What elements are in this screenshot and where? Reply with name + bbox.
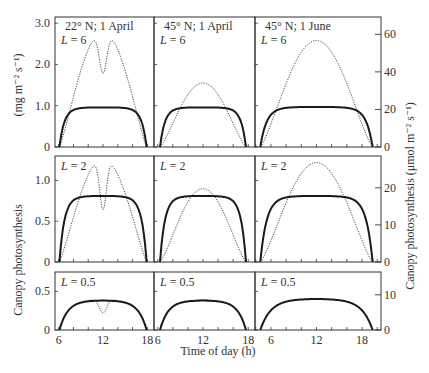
dotted-curve: [260, 299, 372, 330]
panel-r2-c2: L = 0.561218: [255, 272, 381, 347]
y-tick-label-left: 1.0: [35, 99, 50, 113]
y-tick-label-right: 20: [384, 181, 396, 195]
y-tick-label-right: 0: [384, 323, 390, 337]
x-tick-label: 18: [141, 333, 153, 347]
panel-r0-c2: L = 645° N; 1 June: [255, 17, 381, 147]
x-tick-label: 6: [56, 333, 62, 347]
dotted-curve: [160, 83, 246, 147]
dotted-curve: [260, 163, 372, 263]
column-label: 45° N; 1 June: [265, 19, 331, 33]
panel-grid: L = 622° N; 1 AprilL = 645° N; 1 AprilL …: [35, 16, 396, 347]
panel-r1-c1: L = 2: [154, 156, 255, 262]
y-tick-label-left: 1.0: [35, 173, 50, 187]
x-tick-label: 18: [356, 333, 368, 347]
solid-curve: [160, 196, 246, 262]
dotted-curve: [260, 41, 372, 148]
panel-r2-c1: L = 0.561218: [154, 272, 255, 347]
solid-curve: [160, 301, 246, 330]
x-tick-label: 6: [155, 333, 161, 347]
dotted-curve: [59, 166, 146, 262]
lai-label: L = 6: [159, 33, 185, 47]
y-tick-label-left: 0: [44, 140, 50, 154]
lai-label: L = 2: [260, 159, 286, 173]
y-tick-label-right: 40: [384, 65, 396, 79]
dotted-curve: [59, 41, 146, 147]
y-axis-label-left: Canopy photosynthesis: [11, 204, 25, 316]
lai-label: L = 0.5: [60, 275, 95, 289]
y-axis-label-right: Canopy photosynthesis (μmol m⁻² s⁻¹): [403, 102, 417, 290]
x-tick-label: 12: [97, 333, 109, 347]
panel-r0-c1: L = 645° N; 1 April: [154, 17, 255, 147]
y-tick-label-right: 10: [384, 218, 396, 232]
solid-curve: [160, 107, 246, 147]
lai-label: L = 2: [159, 159, 185, 173]
y-axis-unit-left: (mg m⁻² s⁻¹): [11, 53, 25, 116]
panel-r0-c0: L = 622° N; 1 April: [55, 17, 154, 147]
y-tick-label-right: 10: [384, 288, 396, 302]
panel-r2-c0: L = 0.561218: [55, 272, 154, 347]
solid-curve: [59, 107, 146, 147]
solid-curve: [260, 107, 372, 147]
solid-curve: [59, 196, 146, 262]
y-tick-label-left: 2.0: [35, 57, 50, 71]
solid-curve: [59, 301, 146, 330]
lai-label: L = 6: [60, 33, 86, 47]
y-tick-label-left: 0: [44, 255, 50, 269]
y-tick-label-left: 0: [44, 323, 50, 337]
panel-r1-c0: L = 2: [55, 156, 154, 262]
y-tick-label-left: 0.5: [35, 284, 50, 298]
solid-curve: [260, 196, 372, 262]
solid-curve: [260, 299, 372, 330]
dotted-curve: [160, 300, 246, 330]
y-tick-label-right: 0: [384, 255, 390, 269]
x-axis-label: Time of day (h): [180, 344, 255, 358]
y-tick-label-left: 3.0: [35, 16, 50, 30]
x-tick-label: 6: [268, 333, 274, 347]
column-label: 45° N; 1 April: [164, 19, 233, 33]
column-label: 22° N; 1 April: [65, 19, 134, 33]
x-tick-label: 12: [310, 333, 322, 347]
y-tick-label-right: 0: [384, 140, 390, 154]
panel-r1-c2: L = 2: [255, 156, 381, 262]
dotted-curve: [160, 189, 246, 262]
y-tick-label-left: 0.5: [35, 214, 50, 228]
lai-label: L = 2: [60, 159, 86, 173]
lai-label: L = 0.5: [260, 275, 295, 289]
y-tick-label-right: 20: [384, 102, 396, 116]
lai-label: L = 6: [260, 33, 286, 47]
dotted-curve: [59, 300, 146, 330]
figure: L = 622° N; 1 AprilL = 645° N; 1 AprilL …: [0, 0, 429, 373]
lai-label: L = 0.5: [159, 275, 194, 289]
y-tick-label-right: 60: [384, 27, 396, 41]
